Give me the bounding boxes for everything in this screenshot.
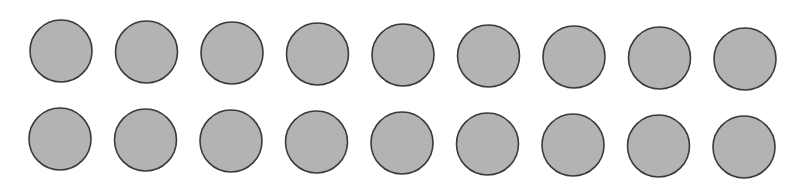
circle — [287, 23, 349, 85]
circle — [629, 27, 691, 89]
circle — [371, 112, 433, 174]
circle — [116, 21, 178, 83]
circles-canvas — [0, 0, 801, 186]
circle — [29, 108, 91, 170]
circle-grid — [0, 0, 801, 186]
circle — [30, 20, 92, 82]
circle — [372, 24, 434, 86]
circle — [200, 110, 262, 172]
circle — [542, 114, 604, 176]
circle — [543, 26, 605, 88]
circle — [713, 116, 775, 178]
circle — [201, 22, 263, 84]
circle — [286, 111, 348, 173]
circle — [628, 115, 690, 177]
circle — [714, 28, 776, 90]
circle — [458, 25, 520, 87]
circle — [115, 109, 177, 171]
circle — [457, 113, 519, 175]
